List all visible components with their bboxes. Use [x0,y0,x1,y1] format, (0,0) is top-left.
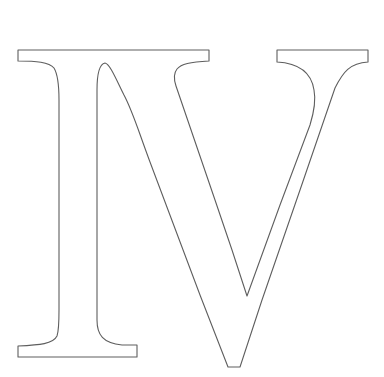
roman-numeral-iv-outline [0,0,384,377]
figure-canvas: IV [0,0,384,377]
glyph-outline-iv [18,50,368,367]
